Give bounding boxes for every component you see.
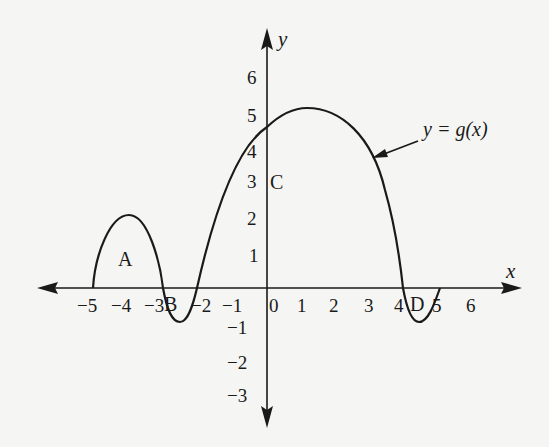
x-tick-label: 6 xyxy=(466,295,476,316)
y-tick-label: −2 xyxy=(227,352,247,373)
x-tick-label: −3 xyxy=(144,295,164,316)
y-tick-label: 3 xyxy=(247,171,257,192)
x-axis-left-arrow-icon xyxy=(37,282,58,294)
y-tick-label: 5 xyxy=(247,105,257,126)
curve-label-prefix: y = xyxy=(421,118,455,141)
region-label-c: C xyxy=(270,171,283,193)
y-axis-label: y xyxy=(276,27,288,51)
region-label-a: A xyxy=(118,248,133,270)
region-label-b: B xyxy=(164,293,177,315)
x-tick-label: 2 xyxy=(329,295,339,316)
x-tick-label: −1 xyxy=(222,295,242,316)
y-tick-label: −1 xyxy=(227,317,247,338)
x-tick-label: −5 xyxy=(77,295,97,316)
region-label-d: D xyxy=(410,293,424,315)
x-tick-label: 0 xyxy=(269,295,279,316)
x-tick-label: 4 xyxy=(394,295,404,316)
curve-label-pointer xyxy=(372,141,418,158)
x-tick-label: 3 xyxy=(364,295,374,316)
graph-of-g: x y −5 −4 −3 −2 −1 0 1 2 3 4 5 6 6 5 4 3… xyxy=(0,0,549,447)
x-tick-label: 1 xyxy=(297,295,307,316)
y-tick-labels: 6 5 4 3 2 1 −1 −2 −3 xyxy=(227,67,259,406)
x-axis-right-arrow-icon xyxy=(501,282,522,294)
y-tick-label: 6 xyxy=(247,67,257,88)
y-axis xyxy=(261,28,273,428)
pointer-arrowhead-icon xyxy=(372,149,388,158)
y-tick-label: 2 xyxy=(247,208,257,229)
x-tick-label: −4 xyxy=(111,295,132,316)
curve-label-func: g(x) xyxy=(455,118,488,141)
x-axis xyxy=(37,282,522,294)
x-axis-label: x xyxy=(505,259,516,283)
y-tick-label: 1 xyxy=(249,245,259,266)
curve-label: y = g(x) xyxy=(421,118,488,141)
y-tick-label: −3 xyxy=(227,385,247,406)
